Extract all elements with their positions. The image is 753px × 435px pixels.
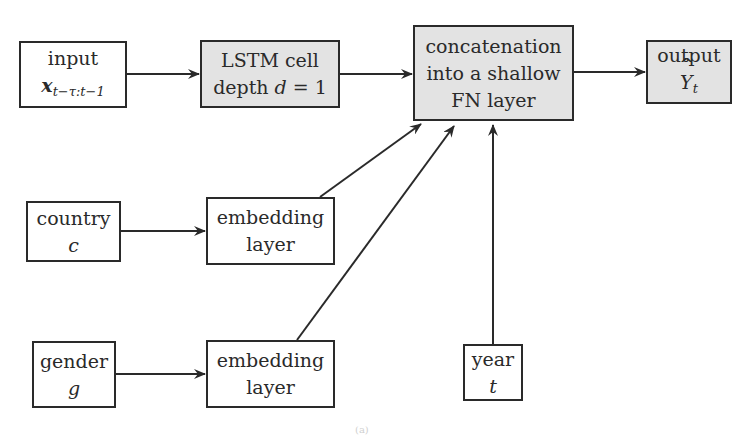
year-symbol: t <box>489 373 497 400</box>
output-node: output Yt <box>646 40 732 104</box>
lstm-depth: depth d = 1 <box>213 74 327 101</box>
embedding-country-line1: embedding <box>217 204 324 231</box>
lstm-label: LSTM cell <box>221 47 319 74</box>
embedding-gender-line1: embedding <box>217 347 324 374</box>
concatenation-node: concatenation into a shallow FN layer <box>413 25 574 121</box>
output-symbol: Yt <box>680 69 698 102</box>
gender-node: gender g <box>32 341 116 408</box>
input-node: input xt−τ:t−1 <box>19 41 127 108</box>
embedding-gender-line2: layer <box>246 374 294 401</box>
year-label: year <box>472 346 514 373</box>
embedding-layer-country-node: embedding layer <box>206 197 335 265</box>
gender-symbol: g <box>68 375 80 402</box>
concat-line3: FN layer <box>451 87 535 114</box>
embedding-layer-gender-node: embedding layer <box>206 340 335 408</box>
concat-line2: into a shallow <box>427 60 561 87</box>
year-node: year t <box>463 344 523 401</box>
embedding-country-line2: layer <box>246 231 294 258</box>
gender-label: gender <box>40 348 108 375</box>
figure-caption: (a) <box>355 424 369 435</box>
concat-line1: concatenation <box>425 33 561 60</box>
country-node: country c <box>26 201 121 262</box>
input-label: input <box>48 45 98 72</box>
country-symbol: c <box>68 232 79 259</box>
lstm-cell-node: LSTM cell depth d = 1 <box>200 40 340 108</box>
country-label: country <box>36 205 110 232</box>
input-symbol: xt−τ:t−1 <box>41 72 104 105</box>
edge-embedding-country-to-concat <box>320 124 421 197</box>
